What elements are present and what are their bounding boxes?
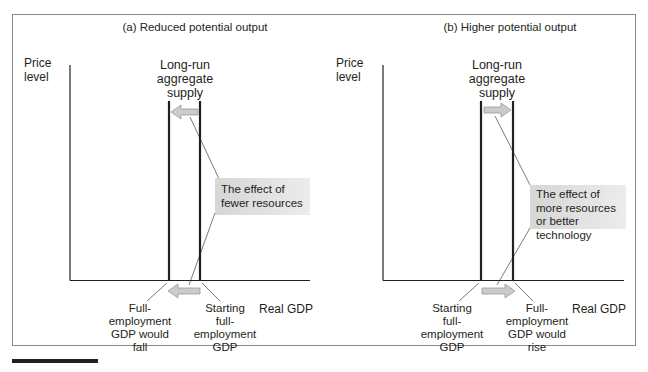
panel-b-right-line-label: Full- employment GDP would rise bbox=[497, 302, 577, 354]
label-line2: employment bbox=[497, 315, 577, 328]
lras-line2: aggregate bbox=[145, 72, 225, 86]
label-line1: Full- bbox=[100, 302, 180, 315]
label-line2: full- bbox=[185, 315, 265, 328]
panel-b-shift-arrow-top bbox=[484, 103, 511, 117]
label-line4: fall bbox=[100, 341, 180, 354]
panel-b-shift-arrow-bottom bbox=[482, 284, 515, 298]
panel-b-leader-lines bbox=[459, 116, 533, 301]
panel-a-right-line-label: Starting full- employment GDP bbox=[185, 302, 265, 354]
callout-line2: more resources bbox=[536, 202, 620, 216]
panel-b-title: (b) Higher potential output bbox=[420, 21, 600, 34]
callout-line3: or better bbox=[536, 215, 620, 229]
label-line4: GDP bbox=[185, 341, 265, 354]
label-line1: Starting bbox=[412, 302, 492, 315]
lras-line1: Long-run bbox=[457, 58, 537, 72]
label-line4: GDP bbox=[412, 341, 492, 354]
panel-b-left-line-label: Starting full- employment GDP bbox=[412, 302, 492, 354]
panel-b-lras-label: Long-run aggregate supply bbox=[457, 58, 537, 100]
label-line4: rise bbox=[497, 341, 577, 354]
panel-b-callout: The effect of more resources or better t… bbox=[530, 185, 626, 229]
label-line3: GDP would bbox=[497, 328, 577, 341]
lras-line3: supply bbox=[145, 86, 225, 100]
callout-line2: fewer resources bbox=[221, 196, 304, 210]
y-label-line2: level bbox=[24, 70, 51, 84]
y-label-line1: Price bbox=[24, 56, 51, 70]
callout-line1: The effect of bbox=[536, 188, 620, 202]
footer-rule bbox=[12, 359, 98, 363]
panel-a-lras-label: Long-run aggregate supply bbox=[145, 58, 225, 100]
panel-a-title: (a) Reduced potential output bbox=[100, 21, 290, 34]
label-line1: Full- bbox=[497, 302, 577, 315]
y-label-line1: Price bbox=[336, 56, 363, 70]
y-label-line2: level bbox=[336, 70, 363, 84]
panel-a-x-axis-label: Real GDP bbox=[259, 302, 313, 316]
panel-b-lras-lines bbox=[481, 101, 513, 280]
panel-a-callout: The effect of fewer resources bbox=[215, 178, 310, 215]
panel-b-x-axis-label: Real GDP bbox=[572, 302, 626, 316]
lras-line2: aggregate bbox=[457, 72, 537, 86]
label-line3: employment bbox=[412, 328, 492, 341]
label-line3: GDP would bbox=[100, 328, 180, 341]
panel-a-left-line-label: Full- employment GDP would fall bbox=[100, 302, 180, 354]
lras-line1: Long-run bbox=[145, 58, 225, 72]
lras-line3: supply bbox=[457, 86, 537, 100]
panel-a-y-axis-label: Price level bbox=[24, 56, 51, 84]
label-line1: Starting bbox=[185, 302, 265, 315]
label-line3: employment bbox=[185, 328, 265, 341]
panel-a-leader-lines bbox=[147, 117, 220, 301]
panel-b-y-axis-label: Price level bbox=[336, 56, 363, 84]
panel-a-shift-arrow-bottom bbox=[168, 284, 200, 298]
callout-line4: technology bbox=[536, 229, 620, 243]
callout-line1: The effect of bbox=[221, 182, 304, 196]
panel-a-shift-arrow-top bbox=[171, 105, 198, 119]
label-line2: employment bbox=[100, 315, 180, 328]
label-line2: full- bbox=[412, 315, 492, 328]
